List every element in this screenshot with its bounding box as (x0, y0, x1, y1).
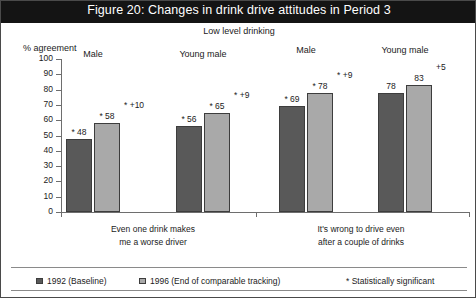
x-axis-category-label: Even one drink makes (83, 223, 223, 235)
x-axis-tick-mark (256, 212, 257, 217)
bar-value-label: * 48 (59, 127, 99, 137)
y-axis-tick-label: 10 (27, 191, 53, 201)
bar-series1-group2 (176, 126, 202, 212)
y-axis-tick-label: 60 (27, 114, 53, 124)
bar-series2-group4 (406, 85, 432, 212)
y-axis-tick-label: 40 (27, 145, 53, 155)
figure-subtitle: Low level drinking (1, 26, 476, 36)
bar-value-label: * 78 (300, 81, 340, 91)
bar-change-label: * +9 (337, 70, 352, 80)
legend-divider-top (11, 267, 467, 268)
bar-series1-group3 (279, 106, 305, 212)
legend-label-1992: 1992 (Baseline) (47, 276, 107, 286)
bar-change-label: +5 (436, 62, 446, 72)
bar-series1-group1 (66, 139, 92, 212)
y-axis-tick-label: 70 (27, 99, 53, 109)
bar-value-label: * 65 (197, 101, 237, 111)
legend-swatch-1992 (36, 278, 43, 284)
bar-group-title: Young male (158, 49, 248, 59)
bar-series2-group2 (204, 113, 230, 212)
bar-value-label: * 69 (272, 94, 312, 104)
y-axis-tick-label: 20 (27, 175, 53, 185)
legend-item-1996: 1996 (End of comparable tracking) (139, 276, 280, 286)
bar-value-label: * 56 (169, 114, 209, 124)
legend-significance-note: * Statistically significant (346, 276, 434, 286)
bar-change-label: * +9 (234, 90, 249, 100)
y-axis-tick-label: 90 (27, 68, 53, 78)
legend-swatch-1996 (139, 278, 146, 284)
legend-label-1996: 1996 (End of comparable tracking) (150, 276, 280, 286)
y-axis-tick-label: 80 (27, 84, 53, 94)
y-axis-tick-label: 30 (27, 160, 53, 170)
x-axis-tick-mark (469, 212, 470, 217)
legend-divider-bottom (11, 290, 467, 291)
bar-group-title: Male (48, 49, 138, 59)
x-axis-tick-mark (61, 212, 62, 217)
bar-value-label: * 58 (87, 111, 127, 121)
bar-series1-group4 (378, 93, 404, 212)
x-axis-category-label: after a couple of drinks (291, 236, 431, 248)
bar-group-title: Male (261, 45, 351, 55)
bar-series2-group1 (94, 123, 120, 212)
bar-group-title: Young male (360, 45, 450, 55)
x-axis-category-label: It's wrong to drive even (291, 223, 431, 235)
y-axis-tick-label: 0 (27, 206, 53, 216)
y-axis-tick-label: 50 (27, 130, 53, 140)
bar-change-label: * +10 (124, 100, 144, 110)
figure-title: Figure 20: Changes in drink drive attitu… (1, 3, 476, 17)
bar-series2-group3 (307, 93, 333, 212)
figure-container: Figure 20: Changes in drink drive attitu… (0, 0, 476, 298)
x-axis-category-label: me a worse driver (83, 236, 223, 248)
bar-value-label: 83 (399, 73, 439, 83)
x-axis-line (61, 212, 469, 213)
legend-item-1992: 1992 (Baseline) (36, 276, 107, 286)
